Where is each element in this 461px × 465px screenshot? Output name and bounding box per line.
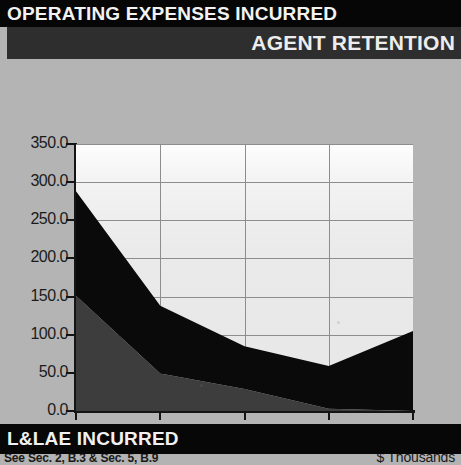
- y-axis-tick: [66, 181, 76, 183]
- chart-area: 0.050.0100.0150.0200.0250.0300.0350.0 Se…: [0, 59, 461, 424]
- y-axis-tick: [66, 219, 76, 221]
- y-axis-tick-label: 300.0: [6, 172, 68, 190]
- y-axis-tick: [66, 296, 76, 298]
- y-axis-tick-label: 250.0: [6, 210, 68, 228]
- x-axis-tick: [328, 411, 330, 420]
- y-axis-tick: [66, 143, 76, 145]
- footer-bar: L&LAE INCURRED: [0, 424, 461, 454]
- y-axis-tick: [66, 334, 76, 336]
- footer-title: L&LAE INCURRED: [0, 428, 179, 450]
- y-axis-labels: 0.050.0100.0150.0200.0250.0300.0350.0: [0, 59, 68, 424]
- y-axis-tick-label: 150.0: [6, 287, 68, 305]
- y-axis-tick-label: 350.0: [6, 134, 68, 152]
- subheader-title: AGENT RETENTION: [251, 31, 461, 55]
- y-axis-tick-label: 50.0: [6, 363, 68, 381]
- plot-area: [76, 144, 413, 411]
- x-axis-tick: [412, 411, 414, 420]
- header-bar: OPERATING EXPENSES INCURRED: [0, 0, 461, 27]
- x-axis-tick: [159, 411, 161, 420]
- scan-speck: [200, 384, 203, 387]
- x-axis-tick: [244, 411, 246, 420]
- y-axis-tick-label: 0.0: [6, 401, 68, 419]
- subheader-bar: AGENT RETENTION: [7, 27, 461, 59]
- y-axis-tick: [66, 372, 76, 374]
- stacked-area-series: [76, 144, 413, 411]
- page-title: OPERATING EXPENSES INCURRED: [0, 3, 337, 25]
- x-axis-tick: [75, 411, 77, 420]
- y-axis-tick: [66, 257, 76, 259]
- scan-speck: [337, 321, 340, 324]
- y-axis-tick-label: 200.0: [6, 248, 68, 266]
- y-axis-tick-label: 100.0: [6, 325, 68, 343]
